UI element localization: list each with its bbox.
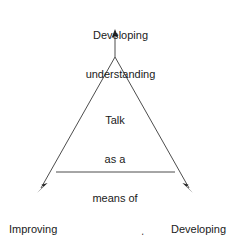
center-label-line1: Talk — [60, 114, 170, 127]
vertex-label-top-line1: Developing — [0, 29, 241, 42]
vertex-label-bottom-right-line1: Developing — [171, 223, 226, 235]
center-label-line3: means of — [60, 192, 170, 205]
arrowhead-down-left-icon — [37, 183, 48, 193]
vertex-label-bottom-left: Improving language — [9, 197, 57, 235]
vertex-label-bottom-left-line1: Improving — [9, 223, 57, 235]
center-label-line4: assessment — [60, 231, 170, 235]
center-label-line2: as a — [60, 153, 170, 166]
center-label: Talk as a means of assessment — [60, 88, 170, 235]
triangle-diagram: Developing understanding Talk as a means… — [0, 0, 241, 235]
arrowhead-down-right-icon — [182, 183, 193, 193]
vertex-label-bottom-right: Developing social skills — [171, 197, 226, 235]
vertex-label-top-line2: understanding — [0, 68, 241, 81]
